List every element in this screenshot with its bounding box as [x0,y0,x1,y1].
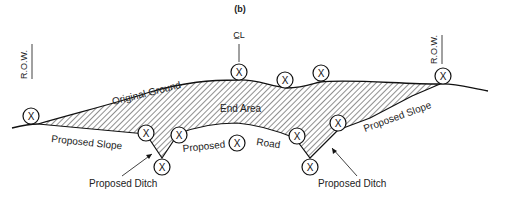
point-marker-centerline: X [231,64,247,80]
point-marker-row-right: X [435,68,451,84]
svg-text:X: X [236,67,243,78]
svg-text:X: X [143,128,150,139]
row-left-marker: R.O.W. [19,44,32,79]
svg-text:X: X [294,131,301,142]
figure-label: (b) [234,4,246,14]
proposed-ditch-left-label: Proposed Ditch [89,178,157,189]
centerline-marker: C̲L [233,30,245,62]
svg-text:X: X [234,138,241,149]
row-right-label: R.O.W. [429,35,439,64]
svg-text:X: X [335,118,342,129]
point-marker-shoulder-right: X [289,128,305,144]
point-marker-ground-1: X [277,72,293,88]
point-marker-road-crown: X [229,135,245,151]
ditch-right-leader [332,148,357,176]
svg-text:X: X [318,68,325,79]
end-area-label: End Area [220,103,262,114]
point-marker-shoulder-left: X [171,127,187,143]
point-marker-ditch-bottom-right: X [302,159,318,175]
proposed-slope-left-label: Proposed Slope [51,133,123,151]
point-marker-row-left: X [23,108,39,124]
centerline-label: C̲L [233,30,245,40]
svg-text:X: X [176,130,183,141]
proposed-road-label-2: Road [256,136,281,150]
point-marker-ditch-bottom-left: X [154,159,170,175]
cross-section-diagram: (b) R.O.W. R.O.W. C̲L Original Ground En… [0,0,509,204]
point-marker-slope-toe-left: X [138,125,154,141]
proposed-road-label-1: Proposed [182,139,226,154]
point-marker-slope-toe-right: X [330,115,346,131]
svg-text:X: X [440,71,447,82]
ditch-left-leader [122,154,152,176]
svg-text:X: X [28,111,35,122]
row-left-label: R.O.W. [19,50,29,79]
row-right-marker: R.O.W. [429,35,442,64]
svg-text:X: X [282,75,289,86]
svg-text:X: X [307,162,314,173]
proposed-ditch-right-label: Proposed Ditch [318,178,386,189]
point-marker-ground-2: X [313,65,329,81]
svg-text:X: X [159,162,166,173]
